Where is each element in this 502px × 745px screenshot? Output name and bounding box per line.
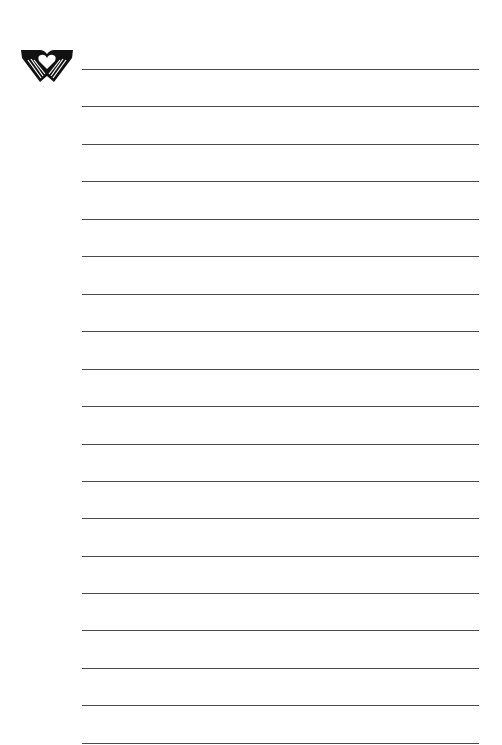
ruled-line <box>82 444 479 445</box>
ruled-line <box>82 630 479 631</box>
ruled-line <box>82 69 479 70</box>
ruled-line <box>82 144 479 145</box>
ruled-line <box>82 518 479 519</box>
ruled-line <box>82 481 479 482</box>
ruled-line <box>82 593 479 594</box>
ruled-line <box>82 556 479 557</box>
ruled-lines <box>0 0 502 745</box>
ruled-line <box>82 219 479 220</box>
ruled-line <box>82 256 479 257</box>
ruled-line <box>82 705 479 706</box>
ruled-line <box>82 106 479 107</box>
ruled-line <box>82 406 479 407</box>
ruled-line <box>82 369 479 370</box>
ruled-line <box>82 743 479 744</box>
ruled-line <box>82 331 479 332</box>
ruled-line <box>82 181 479 182</box>
ruled-line <box>82 294 479 295</box>
ruled-line <box>82 668 479 669</box>
